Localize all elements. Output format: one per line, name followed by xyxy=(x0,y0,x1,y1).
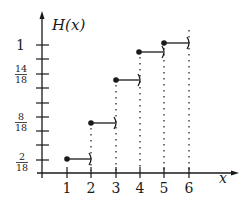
y-label-1: 1 xyxy=(16,37,25,53)
closed-endpoint-icon xyxy=(113,77,119,83)
svg-text:4: 4 xyxy=(136,180,145,196)
svg-text:8: 8 xyxy=(18,111,24,122)
y-label-14-18: 14 18 xyxy=(15,63,27,85)
svg-text:5: 5 xyxy=(160,180,169,196)
step-function-chart: H(x) x 1 14 18 8 18 2 18 1 2 3 4 5 6 xyxy=(0,0,250,203)
y-axis-label: H(x) xyxy=(51,16,85,34)
y-axis-arrow-icon xyxy=(40,11,45,19)
x-tick-labels: 1 2 3 4 5 6 xyxy=(63,180,194,196)
step-5 xyxy=(164,37,189,49)
step-3 xyxy=(116,74,140,86)
closed-endpoint-icon xyxy=(88,120,94,126)
svg-text:6: 6 xyxy=(185,180,194,196)
svg-text:18: 18 xyxy=(15,122,27,133)
svg-text:1: 1 xyxy=(63,180,72,196)
y-label-2-18: 2 18 xyxy=(16,151,28,173)
x-axis-arrow-icon xyxy=(231,171,239,176)
closed-endpoint-icon xyxy=(136,49,142,55)
svg-text:14: 14 xyxy=(15,63,27,74)
step-2 xyxy=(91,117,116,129)
step-4 xyxy=(139,46,164,58)
svg-text:18: 18 xyxy=(16,162,28,173)
svg-text:2: 2 xyxy=(87,180,96,196)
step-1 xyxy=(67,153,91,165)
closed-endpoints xyxy=(64,40,167,162)
y-label-8-18: 8 18 xyxy=(15,111,27,133)
svg-text:2: 2 xyxy=(19,151,25,162)
x-axis-label: x xyxy=(219,170,227,186)
axes xyxy=(37,16,234,178)
svg-text:3: 3 xyxy=(112,180,121,196)
closed-endpoint-icon xyxy=(161,40,167,46)
svg-text:18: 18 xyxy=(15,74,27,85)
closed-endpoint-icon xyxy=(64,156,70,162)
steps xyxy=(67,37,189,165)
